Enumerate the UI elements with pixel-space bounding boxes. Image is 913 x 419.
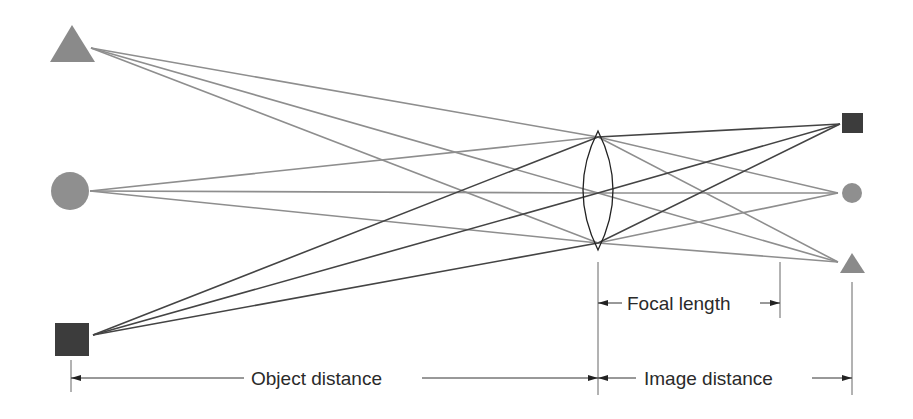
image-distance-label: Image distance — [644, 368, 773, 389]
object-square-icon — [55, 323, 89, 356]
image-circle-icon — [842, 183, 862, 203]
object-circle-icon — [51, 172, 89, 210]
object-distance-label: Object distance — [251, 368, 382, 389]
lens-diagram: Focal length Object distance Image dista… — [0, 0, 913, 419]
focal-length-label: Focal length — [627, 293, 731, 314]
image-triangle-icon — [840, 253, 865, 273]
object-triangle-icon — [50, 25, 95, 62]
image-square-icon — [842, 113, 863, 133]
